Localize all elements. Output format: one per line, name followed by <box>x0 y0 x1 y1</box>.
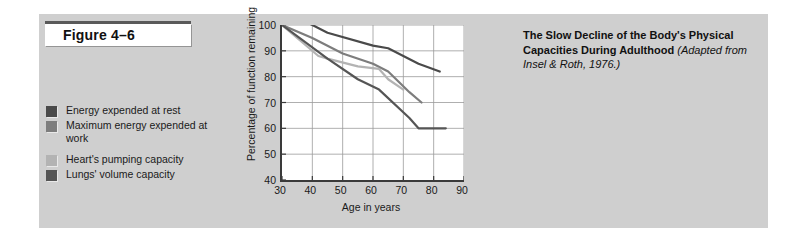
data-series-line <box>282 25 440 72</box>
line-chart: Percentage of function remaining 4050607… <box>232 20 482 220</box>
legend-item-max-energy-at-work: Maximum energy expended at work <box>46 119 231 144</box>
x-axis-tick-label: 90 <box>456 184 468 196</box>
legend-swatch-icon <box>46 121 57 132</box>
y-axis-tick-label: 100 <box>258 19 276 31</box>
legend-item-label: Energy expended at rest <box>66 104 180 117</box>
x-axis-tick-label: 70 <box>395 184 407 196</box>
y-axis-ticks: 405060708090100 <box>250 20 276 180</box>
figure-number-box: Figure 4–6 <box>45 24 191 46</box>
x-axis-tick-label: 60 <box>365 184 377 196</box>
legend-item-label: Lungs' volume capacity <box>66 168 175 181</box>
legend-item-energy-at-rest: Energy expended at rest <box>46 104 231 117</box>
x-axis-tick-label: 80 <box>426 184 438 196</box>
legend-item-label: Maximum energy expended at work <box>66 119 231 144</box>
plot-area <box>280 25 464 182</box>
x-axis-tick-label: 50 <box>335 184 347 196</box>
legend-swatch-icon <box>46 155 57 166</box>
y-axis-tick-label: 70 <box>264 97 276 109</box>
x-axis-ticks: 30405060708090 <box>280 184 462 200</box>
figure-panel-page: Figure 4–6 Energy expended at rest Maxim… <box>0 0 785 241</box>
figure-number-label: Figure 4–6 <box>45 27 135 43</box>
y-axis-tick-label: 90 <box>264 45 276 57</box>
y-axis-tick-label: 80 <box>264 71 276 83</box>
legend-swatch-icon <box>46 106 57 117</box>
legend-item-label: Heart's pumping capacity <box>66 153 184 166</box>
legend-item-lungs-volume-capacity: Lungs' volume capacity <box>46 168 231 181</box>
x-axis-tick-label: 30 <box>274 184 286 196</box>
x-axis-title: Age in years <box>280 201 462 213</box>
y-axis-tick-label: 50 <box>264 148 276 160</box>
chart-legend: Energy expended at rest Maximum energy e… <box>46 104 231 183</box>
legend-swatch-icon <box>46 170 57 181</box>
legend-item-heart-pumping-capacity: Heart's pumping capacity <box>46 153 231 166</box>
figure-number-tag: Figure 4–6 <box>45 21 191 46</box>
x-axis-tick-label: 40 <box>304 184 316 196</box>
figure-caption: The Slow Decline of the Body's Physical … <box>523 28 751 72</box>
plot-svg <box>282 25 464 180</box>
y-axis-tick-label: 60 <box>264 122 276 134</box>
